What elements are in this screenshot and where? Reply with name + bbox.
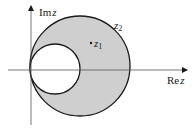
point-z1-dot	[90, 42, 92, 44]
outer-circle-label: z2	[113, 19, 122, 33]
real-axis-label: Rez	[167, 74, 185, 86]
inner-circle	[30, 44, 80, 94]
complex-plane-diagram: Imz Rez z2 z1	[0, 0, 194, 130]
imaginary-axis-label: Imz	[39, 6, 57, 18]
